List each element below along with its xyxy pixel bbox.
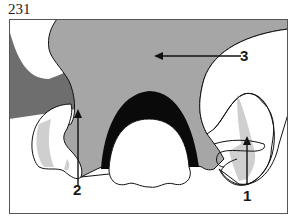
figure-number: 231 [8,0,31,18]
label-1: 1 [243,188,251,204]
label-3: 3 [240,48,248,64]
label-2: 2 [73,182,81,198]
